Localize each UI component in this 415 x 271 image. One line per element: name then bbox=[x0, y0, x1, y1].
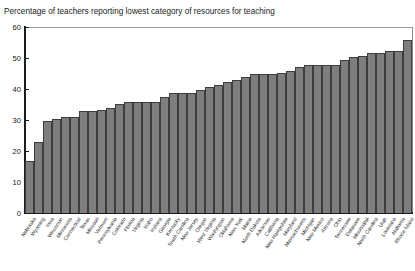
bar-cell bbox=[376, 28, 385, 213]
bar bbox=[304, 65, 313, 213]
y-axis-tick-value: 40 bbox=[13, 85, 21, 94]
y-axis-tick-label: 50 bbox=[0, 54, 21, 62]
bar-cell bbox=[214, 28, 223, 213]
bar bbox=[187, 93, 196, 213]
bar bbox=[133, 102, 142, 213]
bar bbox=[295, 67, 304, 213]
y-axis-tick-label: 10 bbox=[0, 178, 21, 186]
chart-title: Percentage of teachers reporting lowest … bbox=[4, 7, 275, 16]
y-axis-tick-label: 40 bbox=[0, 85, 21, 93]
bar-cell bbox=[259, 28, 268, 213]
bar-cell bbox=[241, 28, 250, 213]
bar bbox=[385, 51, 394, 213]
y-axis-tick-label: 0 bbox=[0, 209, 21, 217]
bar-cell bbox=[151, 28, 160, 213]
bar bbox=[79, 111, 88, 213]
bar-cell bbox=[205, 28, 214, 213]
bar bbox=[106, 108, 115, 213]
bar-cell bbox=[61, 28, 70, 213]
bar bbox=[115, 104, 124, 213]
bar-cell bbox=[88, 28, 97, 213]
bar-cell bbox=[34, 28, 43, 213]
bar bbox=[268, 74, 277, 213]
bar bbox=[178, 93, 187, 213]
bar bbox=[214, 85, 223, 213]
y-axis-tick-value: 60 bbox=[13, 23, 21, 32]
y-axis-tick-label: 20 bbox=[0, 147, 21, 155]
bar bbox=[232, 80, 241, 213]
bar bbox=[322, 65, 331, 213]
bar-cell bbox=[268, 28, 277, 213]
bar-cell bbox=[43, 28, 52, 213]
bar-cell bbox=[349, 28, 358, 213]
bar-cell bbox=[178, 28, 187, 213]
bar bbox=[403, 40, 412, 213]
y-axis-tick-label: 60 bbox=[0, 23, 21, 31]
chart-page: Percentage of teachers reporting lowest … bbox=[0, 0, 415, 271]
bar-cell bbox=[133, 28, 142, 213]
bar-cell bbox=[250, 28, 259, 213]
bar bbox=[169, 93, 178, 213]
bar bbox=[142, 102, 151, 213]
bar-cell bbox=[79, 28, 88, 213]
bar-cell bbox=[106, 28, 115, 213]
bar-cell bbox=[367, 28, 376, 213]
y-axis-tick-value: 50 bbox=[13, 54, 21, 63]
bar-cell bbox=[160, 28, 169, 213]
bar-cell bbox=[340, 28, 349, 213]
bar bbox=[349, 57, 358, 213]
bar-cell bbox=[70, 28, 79, 213]
bar bbox=[34, 142, 43, 213]
bar-cell bbox=[331, 28, 340, 213]
bar-cell bbox=[97, 28, 106, 213]
bar-cell bbox=[223, 28, 232, 213]
bar bbox=[70, 117, 79, 213]
bar bbox=[43, 121, 52, 214]
bar-cell bbox=[196, 28, 205, 213]
bar bbox=[277, 73, 286, 213]
bar-cell bbox=[358, 28, 367, 213]
bar bbox=[97, 110, 106, 213]
bar-cell bbox=[394, 28, 403, 213]
y-axis-tick-value: 0 bbox=[17, 209, 21, 218]
bar bbox=[331, 65, 340, 213]
bar bbox=[250, 74, 259, 213]
bar bbox=[286, 71, 295, 213]
x-axis-labels: NebraskaWyomingIowaWisconsinMinnesotaCon… bbox=[25, 214, 412, 271]
bar bbox=[223, 82, 232, 213]
bar bbox=[61, 117, 70, 213]
bar-cell bbox=[25, 28, 34, 213]
bar bbox=[376, 53, 385, 213]
bar bbox=[52, 119, 61, 213]
bar-cell bbox=[286, 28, 295, 213]
bar-series bbox=[25, 28, 412, 213]
bar-cell bbox=[403, 28, 412, 213]
bar-cell bbox=[295, 28, 304, 213]
bar bbox=[124, 102, 133, 213]
bar-cell bbox=[187, 28, 196, 213]
bar-cell bbox=[115, 28, 124, 213]
bar-cell bbox=[322, 28, 331, 213]
bar-cell bbox=[142, 28, 151, 213]
bar bbox=[358, 56, 367, 213]
bar bbox=[313, 65, 322, 213]
bar bbox=[367, 53, 376, 213]
y-axis-tick-value: 10 bbox=[13, 178, 21, 187]
bar bbox=[205, 87, 214, 213]
bar-cell bbox=[277, 28, 286, 213]
bar-cell bbox=[169, 28, 178, 213]
bar bbox=[160, 97, 169, 213]
bar-cell bbox=[124, 28, 133, 213]
bar bbox=[88, 111, 97, 213]
bar-cell bbox=[52, 28, 61, 213]
bar-cell bbox=[385, 28, 394, 213]
bar-cell bbox=[304, 28, 313, 213]
bar bbox=[340, 60, 349, 213]
bar bbox=[196, 90, 205, 213]
y-axis-tick-label: 30 bbox=[0, 116, 21, 124]
bar-cell bbox=[313, 28, 322, 213]
y-axis-tick-value: 20 bbox=[13, 147, 21, 156]
bar bbox=[151, 102, 160, 213]
bar-cell bbox=[232, 28, 241, 213]
bar bbox=[241, 77, 250, 213]
